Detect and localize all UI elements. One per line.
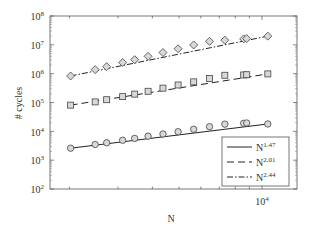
circle-marker-icon xyxy=(206,123,212,129)
circle-marker-icon xyxy=(265,121,271,127)
square-marker-icon xyxy=(222,72,228,78)
circle-marker-icon xyxy=(175,129,181,135)
square-marker-icon xyxy=(244,72,250,78)
square-marker-icon xyxy=(175,82,181,88)
square-marker-icon xyxy=(132,91,138,97)
circle-marker-icon xyxy=(119,137,125,143)
circle-marker-icon xyxy=(131,135,137,141)
y-tick-label: 106 xyxy=(31,68,45,80)
square-marker-icon xyxy=(207,75,213,81)
square-marker-icon xyxy=(265,71,271,77)
y-tick-label: 102 xyxy=(31,183,45,195)
square-marker-icon xyxy=(92,99,98,105)
y-axis-tick-labels: 108 107 106 105 104 103 102 xyxy=(31,10,45,195)
y-tick-label: 104 xyxy=(31,126,45,138)
x-axis-title: N xyxy=(167,213,174,224)
square-marker-icon xyxy=(191,79,197,85)
circle-marker-icon xyxy=(160,131,166,137)
square-marker-icon xyxy=(160,85,166,91)
circle-marker-icon xyxy=(103,140,109,146)
x-tick-label: 104 xyxy=(255,195,269,207)
square-marker-icon xyxy=(120,94,126,100)
circle-marker-icon xyxy=(145,133,151,139)
legend: N1.47 N2.01 N2.44 xyxy=(222,137,289,186)
y-tick-label: 103 xyxy=(31,154,45,166)
circle-marker-icon xyxy=(222,121,228,127)
y-tick-label: 105 xyxy=(31,97,45,109)
square-marker-icon xyxy=(145,88,151,94)
y-axis-title: # cycles xyxy=(13,87,24,120)
y-tick-label: 107 xyxy=(31,39,45,51)
square-marker-icon xyxy=(68,102,74,108)
chart: 108 107 106 105 104 103 102 104 N # cycl… xyxy=(0,0,313,232)
circle-marker-icon xyxy=(190,126,196,132)
circle-marker-icon xyxy=(243,120,249,126)
circle-marker-icon xyxy=(67,145,73,151)
y-tick-label: 108 xyxy=(31,10,45,22)
square-marker-icon xyxy=(104,97,110,103)
circle-marker-icon xyxy=(92,141,98,147)
